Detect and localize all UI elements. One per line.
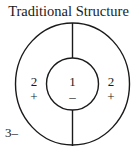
inner-sign: –	[68, 89, 76, 104]
inner-number: 1	[69, 74, 76, 89]
structure-diagram: 2 + 2 + 1 – 3–	[0, 0, 137, 146]
right-ring-number: 2	[108, 74, 115, 89]
left-ring-sign: +	[30, 89, 37, 104]
left-ring-number: 2	[31, 74, 38, 89]
right-ring-sign: +	[107, 89, 114, 104]
outside-label: 3–	[5, 125, 19, 140]
